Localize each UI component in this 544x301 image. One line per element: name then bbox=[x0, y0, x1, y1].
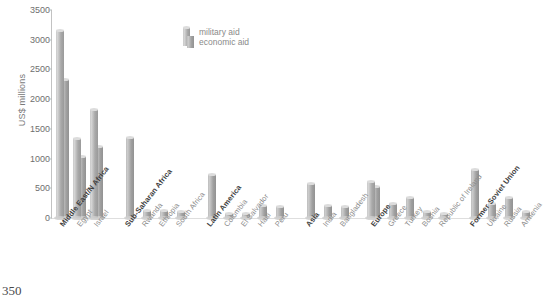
y-axis-tick-mark bbox=[48, 10, 52, 11]
y-axis-tick-mark bbox=[48, 188, 52, 189]
x-axis-country-label: India bbox=[321, 210, 338, 229]
bar-swatch-icon bbox=[187, 36, 194, 48]
y-axis-tick-mark bbox=[48, 99, 52, 100]
y-axis-tick-mark bbox=[48, 39, 52, 40]
x-axis-country-label: Bangladesh bbox=[338, 191, 370, 229]
x-axis-country-label: Israel bbox=[92, 208, 111, 228]
x-axis-country-label: Peru bbox=[273, 210, 290, 228]
x-axis-region-label: Asia bbox=[304, 210, 321, 228]
legend-item-military-aid: military aid bbox=[199, 27, 240, 37]
legend: military aid economic aid bbox=[183, 27, 313, 57]
y-axis-tick-mark bbox=[48, 218, 52, 219]
y-axis-tick-mark bbox=[48, 128, 52, 129]
y-axis-tick-mark bbox=[48, 158, 52, 159]
y-axis-tick-mark bbox=[48, 69, 52, 70]
x-axis-country-label: Haiti bbox=[256, 211, 273, 229]
x-axis-country-label: Bosnia bbox=[420, 204, 442, 228]
legend-item-economic-aid: economic aid bbox=[199, 37, 249, 47]
page-number: 350 bbox=[2, 283, 22, 299]
